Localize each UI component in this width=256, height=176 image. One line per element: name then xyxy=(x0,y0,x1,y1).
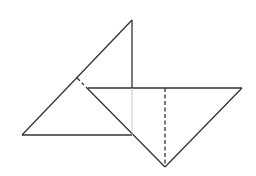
diagonal-line xyxy=(86,87,165,167)
right-edge-line xyxy=(165,88,242,167)
short-dash-line xyxy=(77,78,84,85)
geometry-diagram xyxy=(0,0,256,176)
